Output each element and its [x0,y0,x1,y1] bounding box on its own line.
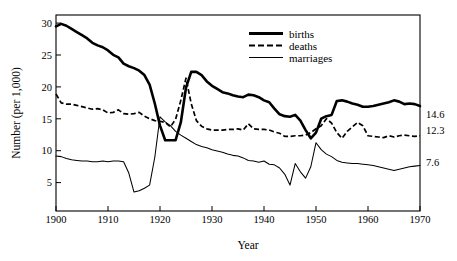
y-tick-label: 5 [47,177,52,188]
vital-statistics-line-chart: 5 10 15 20 25 30 1900 1910 1920 1930 194… [0,0,457,261]
y-tick-label: 30 [42,18,53,29]
end-label-marriages: 7.6 [426,157,439,168]
y-tick-label: 20 [42,82,53,93]
series-line-births [56,24,420,140]
x-tick-labels: 1900 1910 1920 1930 1940 1950 1960 1970 [46,214,431,225]
legend: births deaths marriages [249,28,332,64]
legend-label-marriages: marriages [289,52,332,64]
end-value-labels: 14.6 12.3 7.6 [426,109,444,168]
x-tick-label: 1970 [410,214,431,225]
x-axis-title: Year [237,239,258,251]
y-tick-label: 25 [42,50,53,61]
end-label-births: 14.6 [426,109,444,120]
end-label-deaths: 12.3 [426,125,444,136]
x-tick-label: 1910 [98,214,119,225]
x-tick-label: 1940 [254,214,275,225]
data-series-group [56,24,420,192]
x-tick-label: 1960 [358,214,379,225]
legend-label-deaths: deaths [289,40,317,52]
x-axis-ticks [56,206,420,211]
legend-label-births: births [289,28,314,40]
y-tick-label: 10 [42,145,53,156]
y-tick-labels: 5 10 15 20 25 30 [42,18,53,189]
x-tick-label: 1900 [46,214,67,225]
x-tick-label: 1930 [202,214,223,225]
x-tick-label: 1920 [150,214,171,225]
x-tick-label: 1950 [306,214,327,225]
y-tick-label: 15 [42,114,53,125]
y-axis-title: Number (per 1,000) [10,67,23,159]
series-line-deaths [56,78,420,138]
